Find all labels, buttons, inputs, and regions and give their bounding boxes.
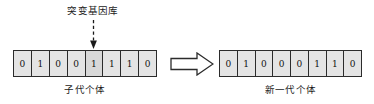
gene-cell: 0 bbox=[344, 51, 361, 76]
gene-cell: 0 bbox=[273, 51, 291, 76]
gene-cell: 0 bbox=[220, 51, 238, 76]
mutation-pool-label: 突变基因库 bbox=[48, 5, 138, 17]
block-right-arrow-icon bbox=[170, 52, 214, 76]
gene-cell: 1 bbox=[327, 51, 345, 76]
gene-cell: 1 bbox=[309, 51, 327, 76]
gene-cell: 1 bbox=[32, 51, 50, 76]
gene-cell-mutated: 0 bbox=[291, 51, 309, 76]
parent-chromosome: 0 1 0 0 1 1 1 0 bbox=[13, 50, 157, 77]
gene-cell: 0 bbox=[139, 51, 156, 76]
gene-cell: 0 bbox=[256, 51, 274, 76]
gene-cell: 1 bbox=[121, 51, 139, 76]
gene-cell: 0 bbox=[68, 51, 86, 76]
gene-cell: 0 bbox=[14, 51, 32, 76]
offspring-caption: 新一代个体 bbox=[219, 84, 362, 96]
gene-cell: 1 bbox=[103, 51, 121, 76]
dashed-down-arrow-icon bbox=[87, 20, 100, 50]
offspring-chromosome: 0 1 0 0 0 1 1 0 bbox=[219, 50, 362, 77]
mutation-diagram: 突变基因库 0 1 0 0 1 1 1 0 0 1 0 0 0 1 1 0 子代… bbox=[0, 0, 374, 104]
gene-cell: 1 bbox=[238, 51, 256, 76]
gene-cell-mutation-point: 1 bbox=[86, 51, 104, 76]
parent-caption: 子代个体 bbox=[13, 84, 157, 96]
gene-cell: 0 bbox=[50, 51, 68, 76]
